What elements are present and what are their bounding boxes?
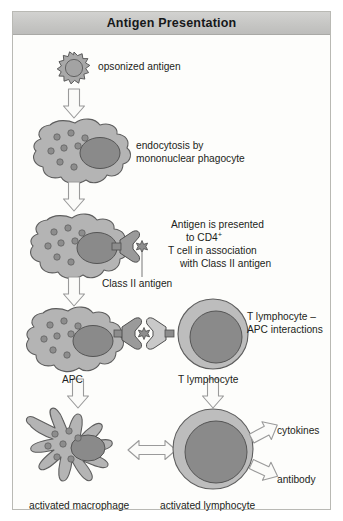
label-endocytosis-line2: mononuclear phagocyte [136,153,245,166]
label-presentation-line2-text: to CD4 [186,232,218,243]
label-presentation-line4: with Class II antigen [180,258,271,271]
label-apc: APC [62,374,83,387]
label-presentation-superscript: + [218,230,222,239]
label-t-lymphocyte-apc-line1: T lymphocyte – [247,311,316,324]
label-cytokines: cytokines [277,425,319,438]
label-activated-lymphocyte: activated lymphocyte [160,500,255,513]
label-endocytosis-line1: endocytosis by [136,140,203,153]
label-opsonized-antigen: opsonized antigen [98,61,181,74]
label-presentation-line3: T cell in association [168,245,257,258]
label-t-lymphocyte-apc-line2: APC interactions [247,324,323,337]
figure-title-bar: Antigen Presentation [13,12,330,35]
label-t-lymphocyte: T lymphocyte [178,374,238,387]
label-antibody: antibody [277,474,316,487]
label-presentation-line2: to CD4+ [186,232,222,245]
antigen-presentation-figure: Antigen Presentation [0,0,343,521]
label-class-ii-antigen-callout: Class II antigen [102,278,172,291]
label-activated-macrophage: activated macrophage [29,500,129,513]
page-title: Antigen Presentation [107,16,237,30]
